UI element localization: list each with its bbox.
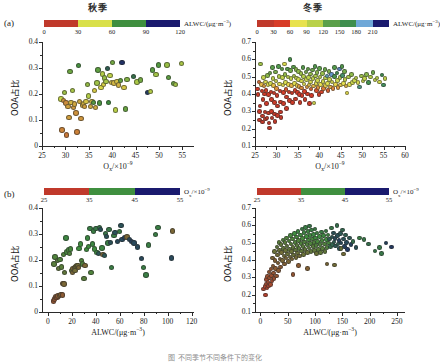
y-axis-title: OOA占比 [8, 79, 20, 116]
colorbar-segment [340, 20, 357, 27]
data-point [279, 115, 284, 120]
data-point [62, 270, 67, 275]
data-point [268, 71, 273, 76]
colorbar-segment [112, 20, 146, 27]
y-minor-tick [253, 303, 255, 304]
colorbar-segment [146, 20, 180, 27]
colorbar-tick-label: 60 [102, 28, 122, 35]
data-point [332, 263, 337, 268]
y-minor-tick [253, 85, 255, 86]
x-minor-tick [356, 312, 357, 314]
data-point [82, 263, 87, 268]
y-minor-tick [253, 68, 255, 69]
panel-autumn-alwc: (b) 25354555Ox/×10−900.10.20.30.40204060… [0, 182, 215, 364]
data-point [345, 247, 350, 252]
x-tick [42, 146, 43, 150]
data-point [164, 62, 169, 67]
x-tick-label: 25 [30, 151, 54, 160]
y-tick [252, 208, 256, 209]
colorbar-segment [257, 188, 301, 195]
data-point [373, 249, 378, 254]
data-point [106, 100, 111, 105]
data-point [274, 274, 279, 279]
data-point [267, 126, 272, 131]
x-minor-tick [301, 312, 302, 314]
y-tick [252, 129, 256, 130]
x-tick-label: 50 [350, 151, 374, 160]
data-point [354, 245, 359, 250]
x-tick [315, 312, 316, 316]
data-point [148, 89, 153, 94]
y-tick-label: 0.3 [10, 229, 38, 238]
colorbar-title: ALWC/(μg·m−3) [393, 19, 440, 28]
data-point [73, 110, 78, 115]
x-minor-tick [171, 146, 172, 148]
y-tick [252, 312, 256, 313]
data-point [61, 281, 66, 286]
y-tick [252, 94, 256, 95]
x-minor-tick [124, 146, 125, 148]
data-point [78, 241, 83, 246]
data-point [339, 246, 344, 251]
x-tick [168, 312, 169, 316]
data-point [169, 255, 174, 260]
data-point [62, 90, 67, 95]
colorbar-tick-label: 35 [291, 196, 311, 203]
x-minor-tick [60, 312, 61, 314]
data-point [102, 253, 107, 258]
y-axis-title: OOA占比 [221, 79, 233, 116]
data-point [109, 265, 114, 270]
data-point [340, 228, 345, 233]
x-tick-label: 40 [84, 317, 108, 326]
x-minor-tick [274, 312, 275, 314]
y-tick [39, 286, 43, 287]
x-tick-label: 0 [248, 317, 272, 326]
y-minor-tick [40, 273, 42, 274]
data-point [97, 100, 102, 105]
scatter-plot-autumn-ox: 0306090120ALWC/(μg·m−3)00.10.20.30.42530… [0, 0, 215, 182]
data-point [60, 292, 65, 297]
y-minor-tick [40, 133, 42, 134]
y-tick [252, 111, 256, 112]
data-point [92, 88, 97, 93]
data-point [121, 85, 126, 90]
data-point [275, 93, 280, 98]
data-point [88, 270, 93, 275]
x-axis-line [42, 312, 194, 313]
data-point [312, 101, 317, 106]
x-tick-label: 25 [243, 151, 267, 160]
x-minor-tick [266, 146, 267, 148]
x-minor-tick [180, 312, 181, 314]
y-tick-label: 0.1 [223, 307, 251, 316]
data-point [153, 72, 158, 77]
colorbar [257, 188, 389, 195]
scatter-plot-winter-ox: 0306090120150180210ALWC/(μg·m−3)0.10.20.… [215, 0, 430, 182]
data-point [74, 129, 79, 134]
data-point [85, 235, 90, 240]
data-point [108, 240, 113, 245]
scatter-plot-autumn-alwc: 25354555Ox/×10−900.10.20.30.402040608010… [0, 182, 215, 364]
x-minor-tick [330, 146, 331, 148]
data-point [340, 64, 345, 69]
y-tick [252, 295, 256, 296]
colorbar-title: Ox/×10−9 [393, 187, 419, 198]
x-tick [159, 146, 160, 150]
data-point [64, 132, 69, 137]
data-point [166, 75, 171, 80]
data-point [366, 242, 371, 247]
data-point [338, 231, 343, 236]
data-point [63, 235, 68, 240]
colorbar-segment [307, 20, 324, 27]
data-point [118, 223, 123, 228]
panel-winter-ox: 冬季 0306090120150180210ALWC/(μg·m−3)0.10.… [215, 0, 430, 182]
x-tick [192, 312, 193, 316]
y-tick-label: 0.2 [223, 124, 251, 133]
x-tick-label: 200 [358, 317, 382, 326]
data-point [110, 60, 115, 65]
y-tick-label: 0 [10, 141, 38, 150]
data-point [135, 244, 140, 249]
y-minor-tick [40, 221, 42, 222]
colorbar [44, 188, 180, 195]
figure-caption: 图 不同季节不同条件下的变化 [0, 352, 430, 362]
